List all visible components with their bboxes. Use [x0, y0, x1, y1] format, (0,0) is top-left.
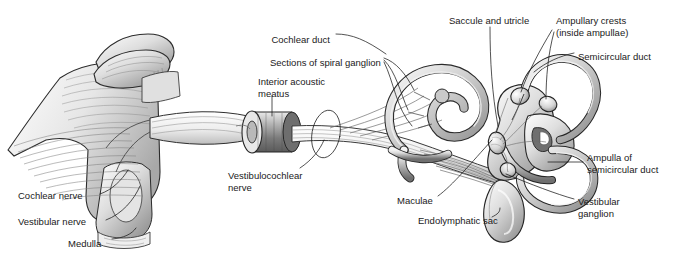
label-endolymphatic-sac: Endolymphatic sac	[418, 215, 498, 227]
leader-cochlear-duct	[336, 34, 386, 54]
label-maculae: Maculae	[397, 195, 433, 207]
label-vestibulocochlear-nerve: Vestibulocochlear nerve	[228, 170, 302, 193]
leader-saccule-utricle	[490, 27, 498, 126]
meatus-lumen	[247, 121, 257, 143]
label-sections-spiral-ganglion: Sections of spiral ganglion	[270, 57, 381, 69]
label-cochlear-duct: Cochlear duct	[271, 34, 330, 46]
label-ampullary-crests: Ampullary crests (inside ampullae)	[556, 15, 628, 38]
modiolus-knob	[435, 89, 449, 103]
internal-acoustic-meatus-group	[236, 111, 301, 153]
label-cochlear-nerve: Cochlear nerve	[18, 190, 82, 202]
inferior-olive	[110, 170, 142, 222]
label-vestibular-ganglion: Vestibular ganglion	[578, 196, 620, 219]
label-semicircular-duct: Semicircular duct	[578, 51, 651, 63]
label-interior-acoustic-meatus: Interior acoustic meatus	[258, 76, 325, 99]
label-saccule-and-utricle: Saccule and utricle	[449, 15, 529, 27]
label-ampulla-of-semicircular-duct: Ampulla of semicircular duct	[587, 152, 658, 175]
label-vestibular-nerve: Vestibular nerve	[18, 216, 86, 228]
peduncle-band	[142, 71, 180, 102]
label-medulla: Medulla	[68, 238, 101, 250]
